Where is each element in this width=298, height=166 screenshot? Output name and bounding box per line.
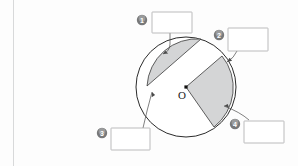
answer-box-4[interactable] <box>244 121 284 143</box>
marker-number-1: 1 <box>140 17 144 24</box>
answer-box-1[interactable] <box>152 12 192 33</box>
circle-diagram-canvas: O 1 2 <box>0 0 298 166</box>
circle-center-label: O <box>178 89 186 101</box>
answer-box-2[interactable] <box>228 28 268 51</box>
marker-number-4: 4 <box>233 121 237 128</box>
answer-box-3[interactable] <box>111 128 150 150</box>
marker-number-3: 3 <box>100 130 104 137</box>
diagram-page: O 1 2 <box>0 0 298 166</box>
marker-number-2: 2 <box>217 32 221 39</box>
